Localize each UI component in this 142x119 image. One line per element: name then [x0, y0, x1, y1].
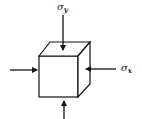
cube-front-face	[39, 56, 78, 97]
sigma-x-label: σx	[121, 62, 133, 75]
stress-cube-diagram: σy σx	[0, 0, 142, 119]
cube	[39, 42, 90, 97]
sigma-y-label: σy	[57, 1, 69, 14]
